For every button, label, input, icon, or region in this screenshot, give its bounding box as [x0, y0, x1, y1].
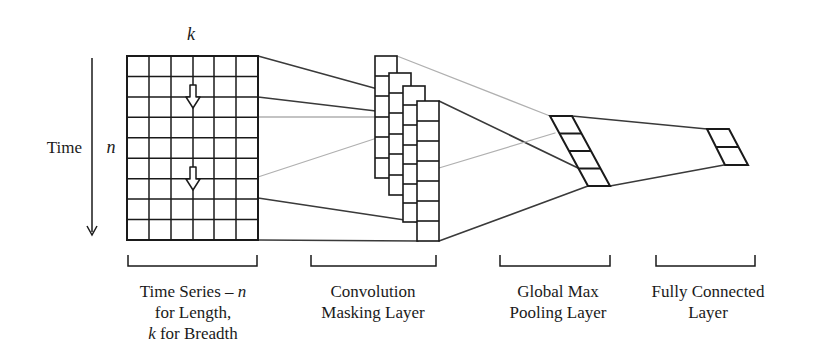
- k-breadth-label: k: [187, 24, 196, 44]
- n-length-label: n: [107, 137, 116, 157]
- stage-brackets: [128, 255, 755, 266]
- bracket-fully-connected: [656, 255, 755, 266]
- bracket-pooling: [500, 255, 610, 266]
- caption-text: Time Series –: [140, 282, 238, 301]
- caption-line: for Length,: [112, 302, 274, 323]
- caption-time-series: Time Series – n for Length, k for Breadt…: [112, 281, 274, 344]
- caption-fully-connected: Fully Connected Layer: [640, 281, 776, 323]
- caption-var-n: n: [238, 282, 247, 301]
- bracket-convolution: [311, 255, 436, 266]
- conv-filter-column: [417, 101, 439, 241]
- caption-line: k for Breadth: [112, 323, 274, 344]
- caption-line: Masking Layer: [298, 302, 448, 323]
- time-axis-arrow: [87, 58, 97, 235]
- fully-connected-layer: [707, 129, 748, 165]
- cnn-diagram: k Time n Time Series – n for Length, k f…: [0, 0, 821, 360]
- caption-line: Convolution: [298, 281, 448, 302]
- time-label: Time: [47, 138, 82, 157]
- caption-line: Global Max: [496, 281, 620, 302]
- caption-global-max-pooling: Global Max Pooling Layer: [496, 281, 620, 323]
- caption-line: Time Series – n: [112, 281, 274, 302]
- caption-line: Pooling Layer: [496, 302, 620, 323]
- global-max-pooling-layer: [550, 116, 610, 186]
- caption-line: Layer: [640, 302, 776, 323]
- caption-convolution: Convolution Masking Layer: [298, 281, 448, 323]
- input-time-series-grid: [127, 56, 258, 240]
- caption-line: Fully Connected: [640, 281, 776, 302]
- convolution-layer: [375, 56, 439, 241]
- caption-var-k: k: [148, 324, 156, 343]
- bracket-time-series: [128, 255, 257, 266]
- caption-text: for Breadth: [156, 324, 238, 343]
